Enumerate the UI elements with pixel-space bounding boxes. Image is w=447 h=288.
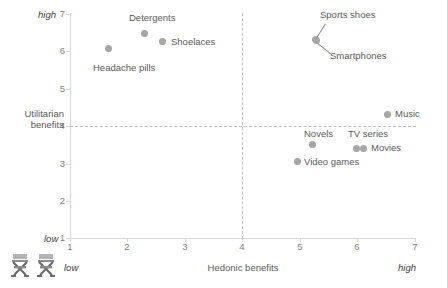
x-tick-label-7: 7	[405, 242, 425, 252]
x-tick-label-6: 6	[347, 242, 367, 252]
y-tick-mark-2	[66, 201, 70, 202]
corner-icon-group	[9, 252, 57, 278]
point-label-video-games: Video games	[304, 156, 359, 167]
point-label-tv-series: TV series	[348, 128, 388, 139]
reference-line-vertical	[242, 13, 243, 239]
y-axis-title: Utilitarian benefits	[2, 108, 64, 130]
point-label-sports-shoes: Sports shoes	[320, 9, 375, 20]
y-tick-mark-7	[66, 14, 70, 15]
data-point-tv-series[interactable]	[353, 145, 360, 152]
x-tick-label-5: 5	[290, 242, 310, 252]
y-axis-low-label: low	[44, 233, 58, 244]
directors-chair-icon	[9, 252, 31, 278]
data-point-shoelaces[interactable]	[159, 38, 166, 45]
y-tick-mark-3	[66, 164, 70, 165]
x-axis-line	[70, 238, 416, 239]
data-point-novels[interactable]	[309, 141, 316, 148]
point-label-novels: Novels	[304, 128, 333, 139]
point-label-music: Music	[395, 108, 420, 119]
data-point-music[interactable]	[384, 111, 391, 118]
y-tick-label-6: 6	[51, 46, 65, 56]
y-tick-mark-6	[66, 51, 70, 52]
point-label-headache-pills: Headache pills	[93, 62, 155, 73]
y-axis-high-label: high	[38, 9, 56, 20]
leader-line-sports-shoes	[316, 24, 326, 39]
x-axis-title: Hedonic benefits	[178, 262, 308, 273]
point-label-smartphones: Smartphones	[330, 50, 387, 61]
scatter-chart: 7 6 5 4 3 2 1 1 2 3 4 5 6 7 Detergents S…	[0, 0, 447, 288]
y-tick-mark-5	[66, 89, 70, 90]
data-point-movies[interactable]	[360, 145, 367, 152]
x-tick-label-3: 3	[175, 242, 195, 252]
x-axis-low-label: low	[64, 262, 78, 273]
x-axis-high-label: high	[398, 262, 416, 273]
data-point-detergents[interactable]	[141, 30, 148, 37]
x-tick-label-2: 2	[117, 242, 137, 252]
reference-line-horizontal	[70, 126, 416, 127]
y-tick-label-5: 5	[51, 84, 65, 94]
point-label-movies: Movies	[371, 142, 401, 153]
data-point-video-games[interactable]	[294, 158, 301, 165]
data-point-headache-pills[interactable]	[105, 45, 112, 52]
point-label-shoelaces: Shoelaces	[171, 36, 215, 47]
point-label-detergents: Detergents	[129, 12, 175, 23]
x-tick-label-4: 4	[232, 242, 252, 252]
y-tick-label-3: 3	[51, 159, 65, 169]
y-tick-label-2: 2	[51, 196, 65, 206]
x-tick-label-1: 1	[60, 242, 80, 252]
directors-chair-icon	[35, 252, 57, 278]
